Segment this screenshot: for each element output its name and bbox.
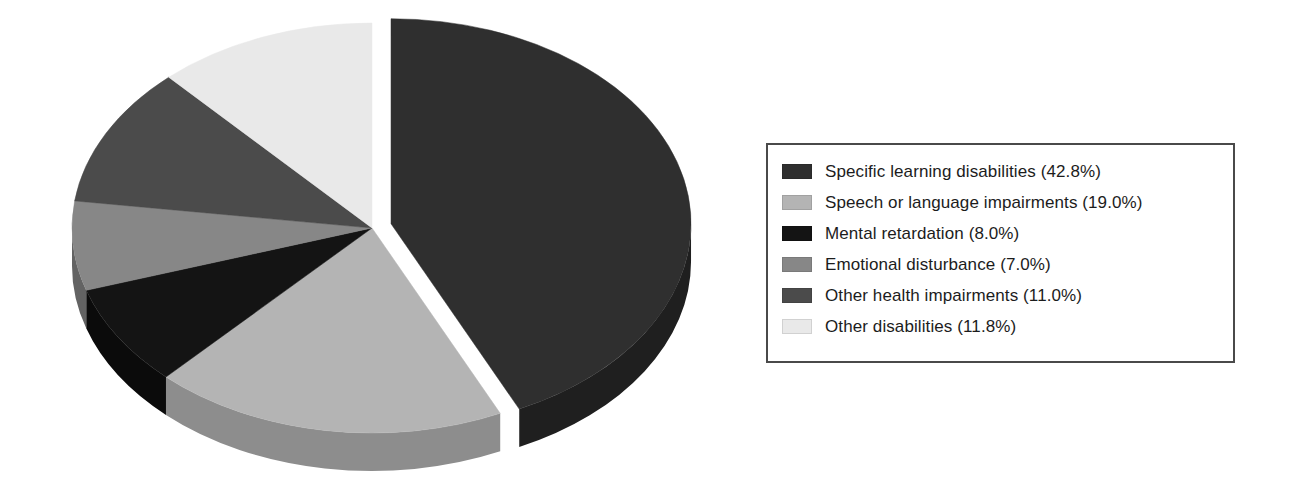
legend-label-emotional-disturbance: Emotional disturbance (7.0%) bbox=[825, 255, 1051, 275]
chart-legend: Specific learning disabilities (42.8%)Sp… bbox=[766, 143, 1235, 363]
legend-item-other-disabilities[interactable]: Other disabilities (11.8%) bbox=[782, 311, 1233, 342]
legend-swatch-other-disabilities bbox=[782, 319, 812, 334]
legend-item-mental-retardation[interactable]: Mental retardation (8.0%) bbox=[782, 218, 1233, 249]
pie-slice-tops: Specific learning disabilities (42.8%)Sp… bbox=[72, 19, 691, 433]
legend-swatch-specific-learning-disabilities bbox=[782, 164, 812, 179]
legend-swatch-other-health-impairments bbox=[782, 288, 812, 303]
legend-label-specific-learning-disabilities: Specific learning disabilities (42.8%) bbox=[825, 162, 1101, 182]
legend-item-emotional-disturbance[interactable]: Emotional disturbance (7.0%) bbox=[782, 249, 1233, 280]
legend-swatch-speech-or-language-impairments bbox=[782, 195, 812, 210]
legend-label-speech-or-language-impairments: Speech or language impairments (19.0%) bbox=[825, 193, 1143, 213]
pie-chart-graphic: Specific learning disabilities (42.8%)Sp… bbox=[0, 0, 720, 486]
legend-swatch-mental-retardation bbox=[782, 226, 812, 241]
legend-label-other-disabilities: Other disabilities (11.8%) bbox=[825, 317, 1016, 337]
legend-item-specific-learning-disabilities[interactable]: Specific learning disabilities (42.8%) bbox=[782, 156, 1233, 187]
pie-chart-figure: Specific learning disabilities (42.8%)Sp… bbox=[0, 0, 1292, 486]
legend-item-speech-or-language-impairments[interactable]: Speech or language impairments (19.0%) bbox=[782, 187, 1233, 218]
legend-label-mental-retardation: Mental retardation (8.0%) bbox=[825, 224, 1019, 244]
legend-label-other-health-impairments: Other health impairments (11.0%) bbox=[825, 286, 1082, 306]
legend-item-other-health-impairments[interactable]: Other health impairments (11.0%) bbox=[782, 280, 1233, 311]
legend-item-list: Specific learning disabilities (42.8%)Sp… bbox=[768, 145, 1233, 342]
legend-swatch-emotional-disturbance bbox=[782, 257, 812, 272]
